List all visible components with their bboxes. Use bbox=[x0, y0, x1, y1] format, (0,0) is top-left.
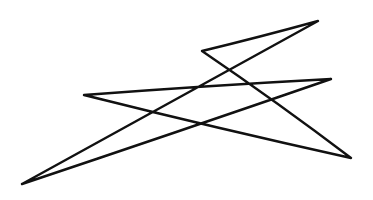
zigzag-line bbox=[22, 21, 351, 184]
sketch-canvas bbox=[0, 0, 373, 200]
